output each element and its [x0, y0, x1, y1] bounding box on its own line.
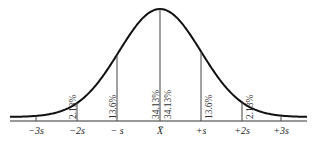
- percent-label: 13.6%: [108, 94, 118, 119]
- axis-label-mean: X̄: [156, 125, 164, 136]
- percent-label: 2.13%: [68, 94, 78, 119]
- percent-label: 34.13%: [163, 90, 173, 119]
- percent-label: 2.13%: [245, 94, 255, 119]
- percent-labels: 2.13%13.6%34.13%34.13%13.6%2.13%: [68, 90, 255, 119]
- axis-label-plus-1s: +s: [196, 125, 207, 136]
- axis-label-minus-3s: −3s: [28, 125, 44, 136]
- axis-label-plus-2s: +2s: [234, 125, 250, 136]
- normal-distribution-diagram: 2.13%13.6%34.13%34.13%13.6%2.13% −3s−2s−…: [0, 0, 317, 148]
- percent-label: 34.13%: [151, 90, 161, 119]
- axis-label-plus-3s: +3s: [273, 125, 289, 136]
- axis-label-minus-2s: −2s: [69, 125, 85, 136]
- percent-label: 13.6%: [204, 94, 214, 119]
- axis-labels: −3s−2s− sX̄+s+2s+3s: [28, 125, 289, 136]
- axis-label-minus-1s: − s: [110, 125, 123, 136]
